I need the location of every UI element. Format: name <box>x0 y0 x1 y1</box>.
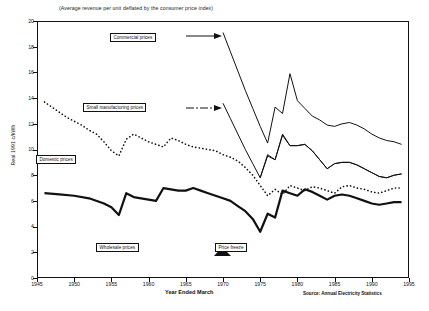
x-tick-mark <box>297 278 298 282</box>
callout-small-manufacturing-prices: Small manufacturing prices <box>83 103 146 112</box>
callout-commercial-prices: Commercial prices <box>110 33 156 42</box>
y-tick-mark <box>33 72 37 73</box>
y-tick-mark <box>33 98 37 99</box>
callout-domestic-prices: Domestic prices <box>36 155 76 164</box>
x-tick-mark <box>335 278 336 282</box>
y-tick-label: 10 <box>12 146 34 152</box>
y-tick-label: 0 <box>12 275 34 281</box>
y-tick-label: 16 <box>12 69 34 75</box>
y-tick-label: 4 <box>12 223 34 229</box>
y-tick-label: 8 <box>12 172 34 178</box>
x-tick-mark <box>372 278 373 282</box>
y-tick-label: 6 <box>12 198 34 204</box>
y-tick-mark <box>33 150 37 151</box>
source-note: Source: Annual Electricity Statistics <box>303 291 382 296</box>
x-tick-mark <box>74 278 75 282</box>
plot-area <box>37 21 409 278</box>
y-tick-mark <box>33 47 37 48</box>
callout-wholesale-prices: Wholesale prices <box>96 243 139 252</box>
y-tick-label: 14 <box>12 95 34 101</box>
y-tick-label: 2 <box>12 249 34 255</box>
callout-price-freeze: Price freeze <box>215 243 247 252</box>
x-tick-mark <box>186 278 187 282</box>
y-tick-mark <box>33 252 37 253</box>
y-tick-mark <box>33 201 37 202</box>
chart-subtitle: (Average revenue per unit deflated by th… <box>59 5 213 11</box>
x-tick-mark <box>111 278 112 282</box>
x-tick-mark <box>223 278 224 282</box>
y-tick-mark <box>33 124 37 125</box>
y-tick-label: 12 <box>12 121 34 127</box>
x-tick-mark <box>37 278 38 282</box>
x-tick-mark <box>409 278 410 282</box>
y-tick-label: 18 <box>12 44 34 50</box>
x-axis-label: Year Ended March <box>165 289 214 295</box>
y-tick-label: 20 <box>12 18 34 24</box>
y-tick-mark <box>33 175 37 176</box>
x-tick-mark <box>260 278 261 282</box>
y-tick-mark <box>33 227 37 228</box>
y-tick-mark <box>33 21 37 22</box>
chart-root: (Average revenue per unit deflated by th… <box>0 0 429 311</box>
x-tick-mark <box>149 278 150 282</box>
